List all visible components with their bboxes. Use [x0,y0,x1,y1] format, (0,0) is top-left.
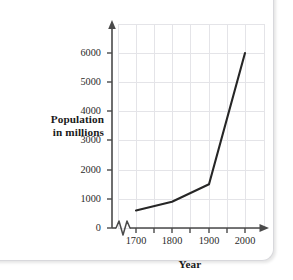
y-tick-label-5000: 5000 [55,76,101,87]
chart-figure: 0 1000 2000 3000 4000 5000 6000 1700 180… [0,0,293,280]
x-tick-label-2000: 2000 [225,235,265,246]
y-tick-label-2000: 2000 [55,164,101,175]
y-tick-label-1000: 1000 [55,193,101,204]
grid-lines [118,24,264,228]
y-tick-label-0: 0 [55,222,101,233]
y-axis-title: Population in millions [6,113,104,138]
x-tick-label-1700: 1700 [116,235,156,246]
y-axis-arrow-icon [108,20,116,29]
y-tick-label-6000: 6000 [55,47,101,58]
y-axis-title-line-1: Population [6,113,104,126]
x-tick-label-1900: 1900 [189,235,229,246]
axis-lines [112,25,261,228]
x-axis-title: Year [120,258,260,271]
x-tick-label-1800: 1800 [152,235,192,246]
y-axis-title-line-2: in millions [6,126,104,139]
figure-card: 0 1000 2000 3000 4000 5000 6000 1700 180… [0,0,293,280]
